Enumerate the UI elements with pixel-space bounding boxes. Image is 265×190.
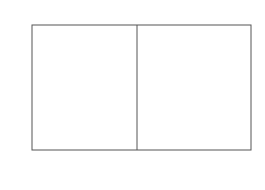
histogram-chart [0, 0, 265, 190]
chart-frame [32, 25, 251, 150]
